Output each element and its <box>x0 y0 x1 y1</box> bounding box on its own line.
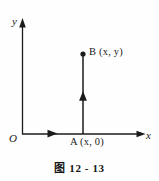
figure-container: y x O B (x, y) A (x, 0) 图 12 - 13 <box>0 0 159 181</box>
point-b-dot <box>80 51 85 56</box>
figure-caption: 图 12 - 13 <box>0 159 159 175</box>
point-b-label: B (x, y) <box>89 47 123 58</box>
x-axis-arrowhead <box>137 131 146 138</box>
y-axis-arrowhead <box>19 18 26 28</box>
x-axis-label: x <box>146 130 151 141</box>
y-axis-label: y <box>12 16 17 27</box>
origin-label: O <box>9 133 17 144</box>
point-a-label: A (x, 0) <box>70 137 104 148</box>
vector-ab-arrowhead <box>79 91 87 101</box>
vector-oa-arrowhead <box>48 130 58 138</box>
